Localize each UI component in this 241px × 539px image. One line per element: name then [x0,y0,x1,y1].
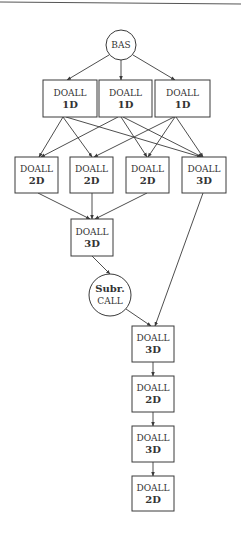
node-label: 2D [145,394,161,405]
node-label: 3D [84,238,100,249]
node-label: 1D [118,99,134,110]
node-d2e: DOALL2D [132,476,174,511]
node-label: 1D [175,99,191,110]
edge-bas-to-d1c [133,55,175,80]
edge-d2a-to-d3b [38,193,90,219]
node-label: 2D [140,175,156,186]
node-circle [89,274,131,316]
top-rule [0,2,241,4]
node-d2a: DOALL2D [15,157,58,193]
node-label: DOALL [131,164,164,174]
node-label: Subr. [95,283,124,294]
edge-d3a-to-d3c [155,193,203,326]
node-d2b: DOALL2D [70,157,113,193]
node-label: DOALL [136,383,169,393]
node-label: DOALL [75,164,108,174]
node-label: 2D [145,494,161,505]
node-d3b: DOALL3D [71,219,113,256]
edge-bas-to-d1a [67,55,109,80]
node-label: 3D [196,175,212,186]
node-label: DOALL [187,164,220,174]
node-label: DOALL [75,227,108,237]
edge-subr-to-d3c [126,309,151,326]
node-label: 3D [145,444,161,455]
diagram-canvas: BASDOALL1DDOALL1DDOALL1DDOALL2DDOALL2DDO… [0,0,241,539]
node-bas: BAS [106,30,136,60]
node-subr: Subr.CALL [89,274,131,316]
node-label: DOALL [53,88,86,98]
node-label: DOALL [136,483,169,493]
node-label: 3D [145,344,161,355]
node-d3a: DOALL3D [182,157,226,193]
node-d2d: DOALL2D [132,376,174,412]
node-d1a: DOALL1D [43,80,97,117]
nodes-layer: BASDOALL1DDOALL1DDOALL1DDOALL2DDOALL2DDO… [15,30,226,511]
edge-d3b-to-subr [92,256,110,274]
node-d1c: DOALL1D [155,80,210,117]
node-d2c: DOALL2D [126,157,169,193]
node-d3d: DOALL3D [132,426,174,462]
node-label: DOALL [20,164,53,174]
node-label: 1D [62,99,78,110]
node-label: BAS [111,40,130,50]
node-label: 2D [29,175,45,186]
node-label: DOALL [136,333,169,343]
edge-d1a-to-d2a [39,117,63,157]
node-label: CALL [97,296,122,306]
node-label: DOALL [109,88,142,98]
node-label: 2D [84,175,100,186]
node-d1b: DOALL1D [99,80,152,117]
edges-layer [38,55,203,476]
node-d3c: DOALL3D [132,326,174,362]
node-label: DOALL [136,433,169,443]
edge-d2c-to-d3b [95,193,147,219]
node-label: DOALL [166,88,199,98]
